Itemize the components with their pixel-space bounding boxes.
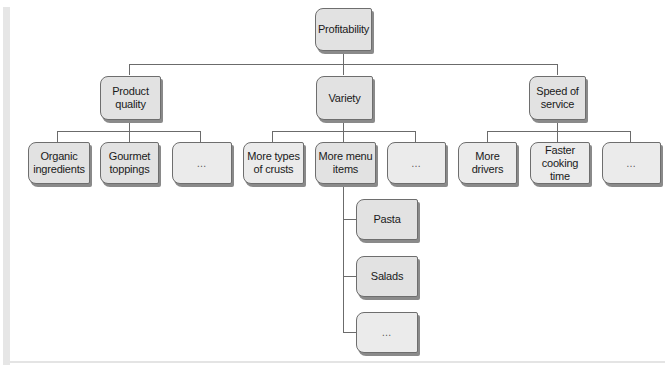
node-product-quality-more: … bbox=[172, 142, 232, 184]
connector-menu-salads bbox=[343, 276, 356, 277]
connector-pq-child3 bbox=[200, 131, 201, 142]
node-salads: Salads bbox=[356, 256, 418, 297]
connector-pq-down bbox=[129, 121, 130, 131]
node-variety-more: … bbox=[387, 142, 446, 184]
node-profitability: Profitability bbox=[315, 8, 372, 51]
node-gourmet-toppings: Gourmet toppings bbox=[100, 142, 159, 184]
connector-variety-child1 bbox=[272, 131, 273, 142]
connector-to-variety bbox=[343, 64, 344, 75]
node-label: Profitability bbox=[318, 23, 369, 36]
node-product-quality: Product quality bbox=[100, 76, 161, 120]
node-label: Pasta bbox=[373, 213, 400, 226]
node-more-drivers: More drivers bbox=[458, 142, 517, 184]
node-menu-items-more: … bbox=[356, 312, 418, 353]
bottom-rule bbox=[10, 361, 665, 363]
node-pasta: Pasta bbox=[356, 199, 418, 240]
connector-variety-child3 bbox=[415, 131, 416, 142]
node-label: Faster cooking time bbox=[542, 144, 579, 183]
connector-speed-child3 bbox=[630, 131, 631, 142]
connector-variety-down bbox=[343, 121, 344, 131]
node-more-menu-items: More menu items bbox=[315, 142, 376, 184]
node-label: More drivers bbox=[472, 150, 504, 176]
node-speed-more: … bbox=[602, 142, 661, 184]
ellipsis-icon: … bbox=[626, 157, 637, 170]
node-label: Gourmet toppings bbox=[109, 150, 150, 176]
connector-root-down bbox=[343, 52, 344, 64]
node-label: Variety bbox=[328, 92, 360, 105]
connector-menu-items-vertical bbox=[343, 186, 344, 333]
connector-pq-child2 bbox=[129, 131, 130, 142]
node-more-types-of-crusts: More types of crusts bbox=[243, 142, 304, 184]
node-label: More types of crusts bbox=[247, 150, 299, 176]
connector-pq-child1 bbox=[57, 131, 58, 142]
connector-menu-pasta bbox=[343, 219, 356, 220]
node-label: Speed of service bbox=[536, 85, 578, 111]
connector-to-product-quality bbox=[129, 64, 130, 75]
node-speed-of-service: Speed of service bbox=[529, 76, 586, 120]
connector-speed-horizontal bbox=[487, 131, 631, 132]
connector-speed-child2 bbox=[557, 131, 558, 142]
connector-variety-child2 bbox=[343, 131, 344, 142]
connector-to-speed bbox=[557, 64, 558, 75]
node-label: More menu items bbox=[319, 150, 373, 176]
connector-speed-down bbox=[557, 121, 558, 131]
ellipsis-icon: … bbox=[382, 326, 393, 339]
connector-speed-child1 bbox=[487, 131, 488, 142]
node-variety: Variety bbox=[316, 76, 373, 120]
connector-variety-horizontal bbox=[272, 131, 416, 132]
node-organic-ingredients: Organic ingredients bbox=[28, 142, 90, 184]
node-label: Salads bbox=[371, 270, 403, 283]
ellipsis-icon: … bbox=[411, 157, 422, 170]
node-label: Product quality bbox=[112, 85, 149, 111]
ellipsis-icon: … bbox=[197, 157, 208, 170]
left-margin-bar bbox=[3, 7, 10, 365]
connector-menu-more bbox=[343, 332, 356, 333]
node-label: Organic ingredients bbox=[33, 150, 85, 176]
node-faster-cooking-time: Faster cooking time bbox=[530, 142, 590, 184]
